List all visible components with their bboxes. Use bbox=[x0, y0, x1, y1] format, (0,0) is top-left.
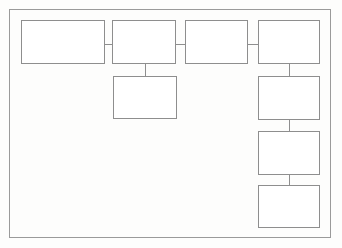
connector-top3-to-top4 bbox=[248, 44, 258, 45]
node-child-center-label bbox=[143, 97, 147, 99]
node-right-3-label bbox=[287, 152, 291, 154]
node-right-3[interactable] bbox=[258, 131, 320, 175]
node-top-1-label bbox=[61, 41, 65, 43]
node-right-4-label bbox=[287, 206, 291, 208]
node-top-3[interactable] bbox=[185, 20, 248, 64]
node-right-2-label bbox=[287, 97, 291, 99]
connector-top2-to-top3 bbox=[176, 44, 185, 45]
node-top-4[interactable] bbox=[258, 20, 320, 64]
connector-right3-to-right4 bbox=[289, 175, 290, 185]
node-top-3-label bbox=[215, 41, 219, 43]
diagram-canvas bbox=[0, 0, 342, 248]
connector-top4-to-right2 bbox=[289, 64, 290, 76]
node-child-center[interactable] bbox=[113, 76, 177, 119]
node-top-2[interactable] bbox=[112, 20, 176, 64]
node-top-1[interactable] bbox=[21, 20, 105, 64]
connector-right2-to-right3 bbox=[289, 120, 290, 131]
node-top-2-label bbox=[142, 41, 146, 43]
node-top-4-label bbox=[287, 41, 291, 43]
connector-top1-to-top2 bbox=[105, 44, 112, 45]
node-right-2[interactable] bbox=[258, 76, 320, 120]
connector-top2-to-child bbox=[145, 64, 146, 76]
node-right-4[interactable] bbox=[258, 185, 320, 228]
